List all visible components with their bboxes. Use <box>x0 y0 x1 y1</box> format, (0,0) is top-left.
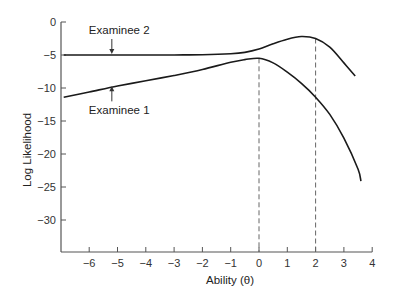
x-tick-label: 3 <box>341 257 347 269</box>
x-tick-label: −6 <box>83 257 96 269</box>
arrow-down-icon <box>109 49 114 54</box>
y-tick-label: −25 <box>37 181 56 193</box>
x-tick-label: −5 <box>111 257 124 269</box>
x-tick-label: 4 <box>369 257 375 269</box>
x-tick-label: −4 <box>140 257 153 269</box>
x-axis-label: Ability (θ) <box>206 274 254 286</box>
x-tick-label: −1 <box>224 257 237 269</box>
y-tick-label: −20 <box>37 148 56 160</box>
y-tick-label: −10 <box>37 82 56 94</box>
annotation-label: Examinee 2 <box>89 24 150 36</box>
annotation-label: Examinee 1 <box>89 104 150 116</box>
x-tick-label: 2 <box>313 257 319 269</box>
x-tick-label: −3 <box>168 257 181 269</box>
series-line-examinee-1 <box>64 58 361 181</box>
y-tick-label: −5 <box>43 49 56 61</box>
log-likelihood-chart: 0−5−10−15−20−25−30−6−5−4−3−2−101234Abili… <box>0 0 394 296</box>
y-tick-label: −30 <box>37 214 56 226</box>
x-tick-label: 0 <box>256 257 262 269</box>
series-line-examinee-2 <box>64 36 356 76</box>
x-tick-label: 1 <box>284 257 290 269</box>
y-tick-label: 0 <box>50 16 56 28</box>
x-tick-label: −2 <box>196 257 209 269</box>
y-axis-label: Log Likelihood <box>21 113 33 187</box>
y-tick-label: −15 <box>37 115 56 127</box>
